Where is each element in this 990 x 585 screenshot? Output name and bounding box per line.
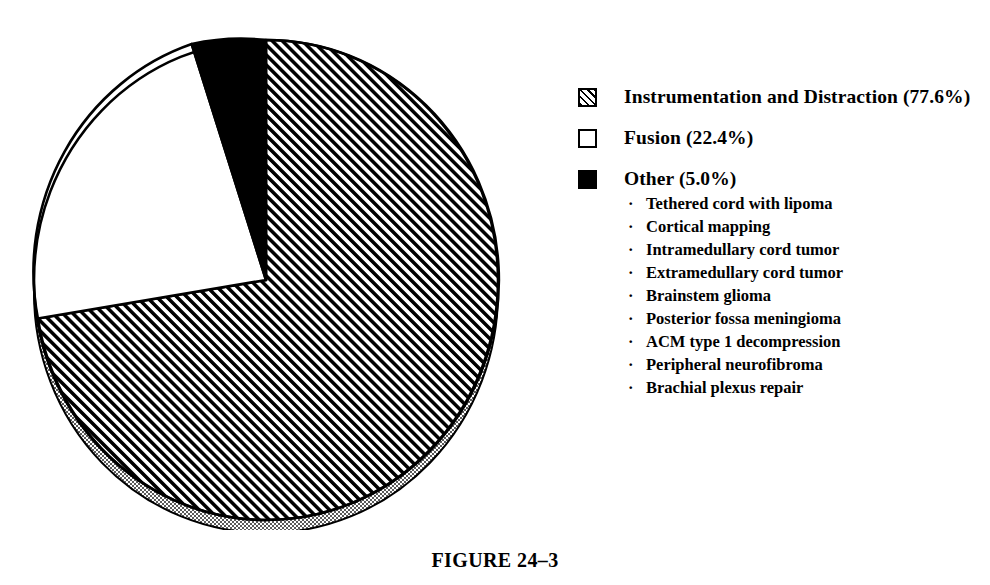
bullet-icon: · (628, 284, 634, 307)
bullet-icon: · (628, 376, 634, 399)
other-list-item-label: Intramedullary cord tumor (646, 240, 839, 259)
other-list-item: ·Extramedullary cord tumor (624, 261, 986, 284)
legend-swatch-black-icon (578, 170, 597, 189)
other-list-item-label: Brainstem glioma (646, 286, 771, 305)
other-list-item: ·ACM type 1 decompression (624, 330, 986, 353)
legend-label-other: Other (5.0%) (624, 168, 986, 190)
legend-swatch-hatched-icon (578, 88, 597, 107)
legend-label-fusion: Fusion (22.4%) (624, 127, 986, 149)
bullet-icon: · (628, 238, 634, 261)
figure-caption: FIGURE 24–3 (0, 549, 990, 572)
bullet-icon: · (628, 261, 634, 284)
figure-container: Instrumentation and Distraction (77.6%) … (0, 0, 990, 585)
bullet-icon: · (628, 330, 634, 353)
pie-chart (28, 20, 518, 530)
other-list-item-label: Peripheral neurofibroma (646, 355, 823, 374)
bullet-icon: · (628, 192, 634, 215)
other-list-item-label: Posterior fossa meningioma (646, 309, 841, 328)
legend-text-other: Other (5.0%) ·Tethered cord with lipoma·… (624, 168, 986, 399)
legend: Instrumentation and Distraction (77.6%) … (578, 86, 986, 418)
legend-item-other[interactable]: Other (5.0%) ·Tethered cord with lipoma·… (578, 168, 986, 399)
legend-text-fusion: Fusion (22.4%) (624, 127, 986, 149)
other-list-item-label: ACM type 1 decompression (646, 332, 840, 351)
legend-label-instrumentation: Instrumentation and Distraction (77.6%) (624, 86, 986, 108)
legend-text-instrumentation: Instrumentation and Distraction (77.6%) (624, 86, 986, 108)
other-list-item-label: Extramedullary cord tumor (646, 263, 843, 282)
other-list-item: ·Brachial plexus repair (624, 376, 986, 399)
other-list-item-label: Tethered cord with lipoma (646, 194, 833, 213)
other-list-item: ·Peripheral neurofibroma (624, 353, 986, 376)
other-list-item: ·Brainstem glioma (624, 284, 986, 307)
other-list-item-label: Brachial plexus repair (646, 378, 803, 397)
bullet-icon: · (628, 215, 634, 238)
legend-swatch-white-icon (578, 129, 597, 148)
other-list-item: ·Tethered cord with lipoma (624, 192, 986, 215)
legend-item-instrumentation[interactable]: Instrumentation and Distraction (77.6%) (578, 86, 986, 108)
other-list-item-label: Cortical mapping (646, 217, 770, 236)
bullet-icon: · (628, 353, 634, 376)
legend-item-fusion[interactable]: Fusion (22.4%) (578, 127, 986, 149)
pie-chart-svg (28, 20, 518, 530)
other-list-item: ·Intramedullary cord tumor (624, 238, 986, 261)
other-category-list: ·Tethered cord with lipoma·Cortical mapp… (624, 192, 986, 399)
other-list-item: ·Posterior fossa meningioma (624, 307, 986, 330)
bullet-icon: · (628, 307, 634, 330)
other-list-item: ·Cortical mapping (624, 215, 986, 238)
